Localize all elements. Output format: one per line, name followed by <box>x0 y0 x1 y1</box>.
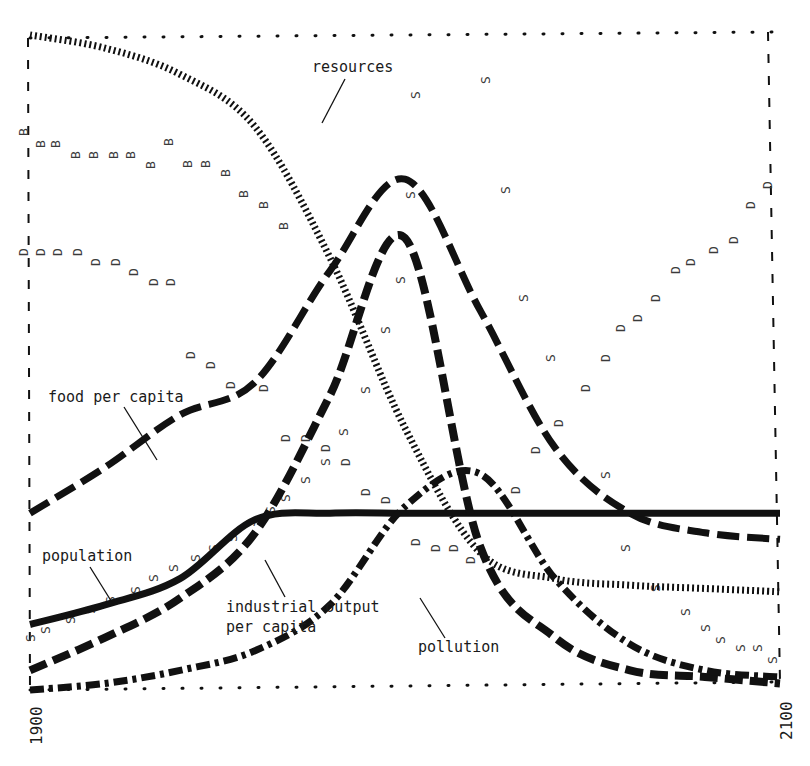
marker-D: D <box>318 444 333 452</box>
marker-B: B <box>48 140 63 148</box>
marker-B: B <box>236 190 251 198</box>
marker-B: B <box>106 151 121 159</box>
curve-pollution <box>30 471 780 690</box>
marker-D: D <box>668 266 683 274</box>
marker-D: D <box>108 258 123 266</box>
marker-D: D <box>743 201 758 209</box>
x-axis: 1900 2100 <box>27 701 796 745</box>
marker-S: S <box>478 76 493 84</box>
marker-S: S <box>648 584 663 592</box>
x-tick-1900: 1900 <box>27 706 46 745</box>
marker-D: D <box>126 268 141 276</box>
marker-D: D <box>88 258 103 266</box>
label-pollution: pollution <box>418 638 499 656</box>
marker-B: B <box>86 151 101 159</box>
marker-B: B <box>256 201 271 209</box>
marker-B: B <box>180 160 195 168</box>
marker-D: D <box>446 544 461 552</box>
label-population: population <box>42 547 132 565</box>
marker-D: D <box>183 351 198 359</box>
marker-S: S <box>598 471 613 479</box>
marker-S: S <box>318 458 333 466</box>
marker-B: B <box>143 161 158 169</box>
marker-D: D <box>760 181 775 189</box>
marker-D: D <box>358 488 373 496</box>
marker-S: S <box>298 476 313 484</box>
marker-B: B <box>161 138 176 146</box>
marker-S: S <box>733 644 748 652</box>
marker-S: S <box>408 91 423 99</box>
marker-S: S <box>166 564 181 572</box>
marker-S: S <box>403 191 418 199</box>
marker-D: D <box>16 248 31 256</box>
marker-D: D <box>70 248 85 256</box>
marker-D: D <box>408 538 423 546</box>
label-industrial-output: industrial output <box>226 598 380 616</box>
marker-S: S <box>713 636 728 644</box>
marker-S: S <box>146 574 161 582</box>
marker-D: D <box>338 458 353 466</box>
marker-S: S <box>765 656 780 664</box>
marker-D: D <box>648 294 663 302</box>
marker-D: D <box>551 419 566 427</box>
marker-B: B <box>123 151 138 159</box>
marker-D: D <box>683 258 698 266</box>
world-model-chart: BBBBBBBBBBBBBBBDDDDDDDDDDDDDDDDDDDDDDDDD… <box>0 0 810 766</box>
marker-S: S <box>750 644 765 652</box>
marker-D: D <box>508 486 523 494</box>
curve-industrial-output-per-capita <box>30 235 780 684</box>
marker-D: D <box>528 446 543 454</box>
marker-S: S <box>336 428 351 436</box>
marker-D: D <box>613 324 628 332</box>
marker-S: S <box>23 634 38 642</box>
letter-markers: BBBBBBBBBBBBBBBDDDDDDDDDDDDDDDDDDDDDDDDD… <box>16 76 780 664</box>
marker-D: D <box>598 354 613 362</box>
marker-D: D <box>463 556 478 564</box>
marker-S: S <box>378 326 393 334</box>
curve-food-per-capita <box>30 179 780 540</box>
marker-B: B <box>218 169 233 177</box>
marker-S: S <box>393 276 408 284</box>
marker-D: D <box>428 544 443 552</box>
marker-D: D <box>223 381 238 389</box>
marker-S: S <box>38 626 53 634</box>
marker-S: S <box>618 544 633 552</box>
marker-D: D <box>378 496 393 504</box>
marker-S: S <box>678 608 693 616</box>
marker-D: D <box>146 278 161 286</box>
marker-D: D <box>163 278 178 286</box>
marker-B: B <box>68 151 83 159</box>
annotations: resources food per capita population ind… <box>42 58 499 656</box>
marker-B: B <box>16 128 31 136</box>
marker-D: D <box>706 246 721 254</box>
marker-D: D <box>33 248 48 256</box>
marker-D: D <box>203 361 218 369</box>
marker-D: D <box>578 384 593 392</box>
label-resources: resources <box>312 58 393 76</box>
marker-D: D <box>630 314 645 322</box>
marker-B: B <box>198 160 213 168</box>
marker-B: B <box>276 222 291 230</box>
marker-S: S <box>358 386 373 394</box>
marker-S: S <box>516 294 531 302</box>
marker-D: D <box>726 236 741 244</box>
marker-D: D <box>256 384 271 392</box>
series-curves <box>30 35 780 690</box>
label-industrial-output-line2: per capita <box>226 618 316 636</box>
marker-D: D <box>278 434 293 442</box>
marker-S: S <box>498 186 513 194</box>
marker-D: D <box>50 248 65 256</box>
marker-S: S <box>698 624 713 632</box>
x-tick-2100: 2100 <box>777 701 796 740</box>
marker-S: S <box>543 354 558 362</box>
label-food-per-capita: food per capita <box>48 388 183 406</box>
marker-B: B <box>33 140 48 148</box>
